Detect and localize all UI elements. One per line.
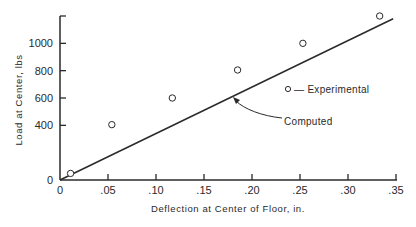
data-point bbox=[376, 13, 382, 19]
computed-line bbox=[60, 19, 393, 180]
x-tick-label: .30 bbox=[340, 184, 355, 196]
computed-annotation: Computed bbox=[233, 97, 333, 127]
data-point bbox=[67, 170, 73, 176]
y-tick-label: 600 bbox=[35, 92, 53, 104]
x-tick-label: .05 bbox=[100, 184, 115, 196]
x-tick-label: .20 bbox=[244, 184, 259, 196]
legend-marker-icon bbox=[285, 86, 290, 91]
y-tick-label: 400 bbox=[35, 119, 53, 131]
legend: — Experimental bbox=[285, 84, 369, 95]
y-tick-label: 0 bbox=[47, 174, 53, 186]
x-ticks: 0.05.10.15.20.25.30.35 bbox=[57, 174, 404, 196]
y-tick-label: 800 bbox=[35, 65, 53, 77]
legend-label-experimental: — Experimental bbox=[294, 84, 369, 95]
x-tick-label: .15 bbox=[196, 184, 211, 196]
annotation-label-computed: Computed bbox=[284, 116, 333, 127]
data-point bbox=[300, 40, 306, 46]
x-tick-label: .35 bbox=[388, 184, 403, 196]
data-point bbox=[234, 67, 240, 73]
y-tick-label: 1000 bbox=[29, 37, 53, 49]
annotation-leader bbox=[236, 101, 282, 118]
x-tick-label: .10 bbox=[148, 184, 163, 196]
load-deflection-chart: 0.05.10.15.20.25.30.35 04006008001000 — … bbox=[0, 0, 416, 227]
x-tick-label: 0 bbox=[57, 184, 63, 196]
data-point bbox=[109, 121, 115, 127]
y-axis-title: Load at Center, lbs bbox=[13, 54, 24, 145]
x-tick-label: .25 bbox=[292, 184, 307, 196]
data-point bbox=[169, 95, 175, 101]
x-axis-title: Deflection at Center of Floor, in. bbox=[151, 203, 305, 214]
